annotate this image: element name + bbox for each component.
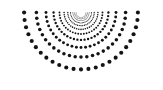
sunburst-dot — [56, 25, 58, 27]
sunburst-dot — [76, 38, 78, 40]
sunburst-dot — [88, 31, 90, 33]
sunburst-dot — [61, 22, 63, 24]
sunburst-dot — [83, 18, 84, 19]
sunburst-dot — [87, 15, 88, 16]
sunburst-dot — [93, 14, 94, 15]
sunburst-dot — [81, 17, 82, 18]
sunburst-dot — [91, 54, 95, 58]
sunburst-dot — [120, 28, 124, 32]
sunburst-dot — [84, 20, 85, 21]
sunburst-dot — [80, 29, 82, 31]
sunburst-dot — [78, 16, 79, 17]
sunburst-dot — [86, 13, 87, 14]
sunburst-dot — [72, 31, 74, 33]
sunburst-dot — [93, 15, 94, 16]
sunburst-dot — [77, 16, 78, 17]
sunburst-dot — [76, 12, 77, 13]
sunburst-dot — [91, 30, 93, 32]
sunburst-dot — [74, 20, 75, 21]
sunburst-dot — [92, 24, 94, 26]
sunburst-dot — [85, 19, 86, 20]
sunburst-dot — [72, 26, 74, 28]
sunburst-dot — [68, 24, 70, 26]
sunburst-dot — [88, 22, 89, 23]
sunburst-dot — [76, 15, 77, 16]
sunburst-dot — [87, 38, 89, 40]
sunburst-dot — [90, 21, 91, 22]
sunburst-dot — [58, 28, 60, 30]
sunburst-dot — [77, 19, 78, 20]
sunburst-dot — [67, 22, 69, 24]
sunburst-dot — [83, 17, 84, 18]
sunburst-dot — [26, 32, 30, 36]
sunburst-dot — [102, 28, 104, 30]
sunburst-dot — [96, 18, 98, 20]
sunburst-dot — [63, 33, 65, 35]
sunburst-dot — [99, 22, 101, 24]
sunburst-dot — [87, 14, 88, 15]
sunburst-dot — [82, 20, 83, 21]
sunburst-dot — [67, 12, 68, 13]
sunburst-dot — [90, 16, 91, 17]
sunburst-dot — [76, 16, 77, 17]
sunburst-dot — [91, 25, 93, 27]
sunburst-dot — [136, 10, 140, 14]
sunburst-dot — [97, 12, 99, 14]
sunburst-dot — [76, 17, 77, 18]
sunburst-dot — [51, 60, 55, 64]
sunburst-dot — [94, 35, 96, 37]
sunburst-dot — [79, 55, 83, 59]
sunburst-dot — [86, 15, 87, 16]
sunburst-dot — [71, 16, 72, 17]
sunburst-dot — [71, 17, 72, 18]
sunburst-dot — [135, 18, 139, 22]
sunburst-dot — [83, 22, 84, 23]
sunburst-dot — [115, 11, 118, 14]
sunburst-dot — [64, 16, 66, 18]
sunburst-dot — [78, 17, 79, 18]
sunburst-dot — [81, 19, 82, 20]
sunburst-dot — [74, 14, 75, 15]
sunburst-dot — [59, 14, 61, 16]
sunburst-dot — [76, 13, 77, 14]
sunburst-dot — [78, 28, 80, 30]
sunburst-dot — [53, 18, 55, 20]
sunburst-dot — [77, 33, 79, 35]
sunburst-dot — [88, 15, 89, 16]
sunburst-dot — [70, 45, 73, 48]
sunburst-dot — [58, 39, 61, 42]
sunburst-dot — [74, 17, 75, 18]
sunburst-dot — [96, 52, 100, 56]
sunburst-dot — [104, 36, 107, 39]
image-canvas — [0, 0, 163, 90]
sunburst-dot — [128, 39, 132, 43]
sunburst-dot — [111, 42, 115, 46]
sunburst-dot — [93, 17, 94, 18]
sunburst-dot — [93, 43, 96, 46]
sunburst-dot — [63, 12, 65, 14]
sunburst-dot — [45, 11, 48, 14]
sunburst-dot — [86, 18, 87, 19]
sunburst-dot — [104, 25, 106, 27]
sunburst-dot — [55, 36, 58, 39]
sunburst-dot — [79, 22, 80, 23]
sunburst-dot — [89, 45, 92, 48]
sunburst-dot — [69, 30, 71, 32]
sunburst-dot — [74, 12, 75, 13]
sunburst-dot — [65, 18, 67, 20]
sunburst-dot — [94, 12, 95, 13]
sunburst-dot — [102, 12, 104, 14]
sunburst-dot — [87, 20, 88, 21]
sunburst-dot — [107, 11, 109, 13]
sunburst-dot — [84, 22, 85, 23]
sunburst-dot — [107, 60, 111, 64]
sunburst-dot — [79, 18, 80, 19]
sunburst-dot — [73, 14, 74, 15]
sunburst-dot — [65, 27, 67, 29]
sunburst-dot — [44, 38, 48, 42]
sunburst-dot — [66, 35, 68, 37]
sunburst-dot — [75, 15, 76, 16]
sunburst-dot — [70, 15, 71, 16]
sunburst-dot — [84, 16, 85, 17]
sunburst-dot — [107, 32, 110, 35]
